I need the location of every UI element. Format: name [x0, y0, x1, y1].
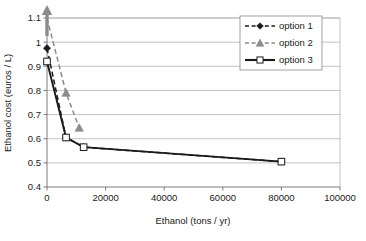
y-axis-ticks-group [44, 18, 48, 187]
x-axis-ticks-group [47, 187, 340, 191]
y-axis-tick-labels: 0.40.50.60.70.80.911.1 [28, 12, 41, 192]
y-axis-tick-label: 1 [36, 37, 41, 48]
x-axis-tick-labels: 020000400006000080000100000 [44, 192, 356, 203]
legend-label: option 3 [279, 54, 313, 65]
y-axis-tick-label: 0.4 [28, 181, 41, 192]
x-axis-tick-label: 60000 [210, 192, 236, 203]
y-axis-tick-label: 0.7 [28, 109, 41, 120]
y-axis-title: Ethanol cost (euros / L) [2, 54, 13, 152]
data-point-marker-square [44, 58, 51, 65]
y-axis-tick-label: 0.9 [28, 61, 41, 72]
x-axis-tick-label: 100000 [324, 192, 356, 203]
legend-label: option 2 [279, 37, 313, 48]
chart-canvas: 0.40.50.60.70.80.911.1 02000040000600008… [0, 0, 366, 241]
legend: option 1option 2option 3 [240, 16, 322, 70]
y-axis-tick-label: 0.6 [28, 133, 41, 144]
legend-label: option 1 [279, 20, 313, 31]
x-axis-tick-label: 40000 [151, 192, 177, 203]
x-axis-tick-label: 0 [44, 192, 49, 203]
y-axis-tick-label: 1.1 [28, 12, 41, 23]
chart-container: 0.40.50.60.70.80.911.1 02000040000600008… [0, 0, 366, 241]
data-point-marker-square [257, 57, 263, 63]
y-axis-tick-label: 0.8 [28, 85, 41, 96]
data-point-marker-square [278, 158, 285, 165]
x-axis-title: Ethanol (tons / yr) [156, 215, 231, 226]
x-axis-tick-label: 20000 [92, 192, 118, 203]
data-point-marker-square [63, 134, 70, 141]
y-axis-tick-label: 0.5 [28, 157, 41, 168]
data-point-marker-square [80, 144, 87, 151]
x-axis-tick-label: 80000 [268, 192, 294, 203]
